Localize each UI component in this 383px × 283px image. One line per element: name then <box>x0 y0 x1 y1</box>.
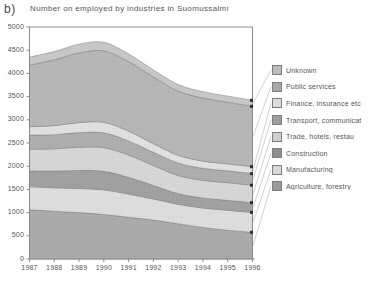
y-tick-label: 2500 <box>0 139 24 146</box>
y-tick-label: 0 <box>0 255 24 262</box>
legend-swatch-icon <box>272 82 282 92</box>
x-tick-label: 1995 <box>215 264 241 271</box>
legend-swatch-icon <box>272 65 282 75</box>
x-tick-label: 1990 <box>91 264 117 271</box>
legend-leader-line <box>253 136 271 194</box>
figure: b) Number on employed by industries in S… <box>0 0 383 283</box>
x-tick-label: 1996 <box>240 264 266 271</box>
band-boundary-marker <box>250 201 253 204</box>
y-tick-label: 500 <box>0 231 24 238</box>
legend-swatch-icon <box>272 98 282 108</box>
legend-label: Agriculture, forestry <box>286 183 351 190</box>
y-tick-label: 1000 <box>0 208 24 215</box>
legend-swatch-icon <box>272 181 282 191</box>
legend-swatch-icon <box>272 132 282 142</box>
legend-item[interactable]: Construction <box>272 145 383 162</box>
band-boundary-marker <box>250 231 253 234</box>
legend-label: Transport, communicat <box>286 117 362 124</box>
y-tick-label: 4000 <box>0 69 24 76</box>
band-boundary-marker <box>250 184 253 187</box>
legend-label: Manufacturing <box>286 166 333 173</box>
x-tick-label: 1994 <box>190 264 216 271</box>
area-bands <box>30 42 253 259</box>
x-tick-label: 1991 <box>116 264 142 271</box>
band-boundary-marker <box>250 211 253 214</box>
legend-label: Construction <box>286 150 328 157</box>
y-tick-label: 5000 <box>0 23 24 30</box>
y-tick-label: 4500 <box>0 46 24 53</box>
legend-leader-lines <box>253 70 271 246</box>
legend-label: Public services <box>286 83 336 90</box>
legend-item[interactable]: Manufacturing <box>272 162 383 179</box>
legend-swatch-icon <box>272 165 282 175</box>
y-tick-label: 2000 <box>0 162 24 169</box>
x-tick-label: 1989 <box>66 264 92 271</box>
y-tick-label: 3000 <box>0 115 24 122</box>
x-tick-label: 1988 <box>41 264 67 271</box>
band-boundary-marker <box>250 172 253 175</box>
band-boundary-marker <box>250 165 253 168</box>
y-tick-label: 3500 <box>0 92 24 99</box>
legend-swatch-icon <box>272 148 282 158</box>
legend-label: Trade, hotels, restau <box>286 133 354 140</box>
legend-leader-line <box>253 103 271 170</box>
legend-item[interactable]: Unknown <box>272 62 383 79</box>
legend-item[interactable]: Agriculture, forestry <box>272 178 383 195</box>
legend-item[interactable]: Trade, hotels, restau <box>272 128 383 145</box>
legend-leader-line <box>253 70 271 103</box>
x-tick-label: 1992 <box>140 264 166 271</box>
x-tick-label: 1993 <box>165 264 191 271</box>
legend-label: Finance, insurance etc <box>286 100 361 107</box>
y-tick-label: 1500 <box>0 185 24 192</box>
legend-label: Unknown <box>286 67 317 74</box>
legend-item[interactable]: Transport, communicat <box>272 112 383 129</box>
legend: UnknownPublic servicesFinance, insurance… <box>272 62 383 195</box>
legend-item[interactable]: Finance, insurance etc <box>272 95 383 112</box>
band-boundary-marker <box>250 105 253 108</box>
x-tick-label: 1987 <box>17 264 43 271</box>
legend-item[interactable]: Public services <box>272 79 383 96</box>
legend-swatch-icon <box>272 115 282 125</box>
band-boundary-marker <box>250 99 253 102</box>
